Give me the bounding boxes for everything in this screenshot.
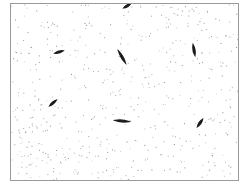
micrograph (11, 4, 238, 180)
organism (197, 119, 204, 128)
organism (123, 4, 131, 9)
organism (54, 50, 63, 54)
organism (115, 119, 129, 122)
organism (192, 44, 196, 55)
organism (49, 99, 57, 106)
image-frame (10, 3, 239, 181)
